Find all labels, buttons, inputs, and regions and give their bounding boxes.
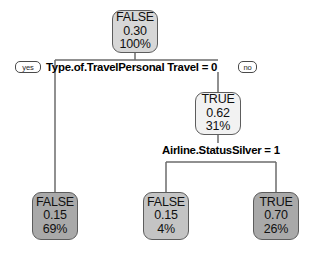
- tree-node-internal-true[interactable]: TRUE 0.62 31%: [195, 92, 241, 135]
- tree-node-leaf-middle[interactable]: FALSE 0.15 4%: [143, 192, 189, 240]
- node-leaf-left-percent: 69%: [43, 223, 67, 237]
- node-root-label: FALSE: [116, 11, 154, 25]
- tree-node-root[interactable]: FALSE 0.30 100%: [112, 10, 158, 53]
- decision-tree-diagram: FALSE 0.30 100% yes Type.of.TravelPerson…: [0, 0, 314, 254]
- node-internal-true-probability: 0.62: [206, 107, 230, 121]
- node-leaf-middle-probability: 0.15: [154, 209, 178, 223]
- node-leaf-right-percent: 26%: [264, 223, 288, 237]
- node-internal-true-label: TRUE: [201, 93, 234, 107]
- split-label-root-text: Type.of.TravelPersonal Travel = 0: [46, 61, 217, 73]
- node-leaf-middle-percent: 4%: [157, 223, 175, 237]
- node-leaf-left-probability: 0.15: [43, 209, 67, 223]
- branch-tag-no[interactable]: no: [238, 61, 257, 73]
- node-root-percent: 100%: [119, 38, 150, 52]
- node-leaf-right-label: TRUE: [259, 196, 292, 210]
- tree-node-leaf-left[interactable]: FALSE 0.15 69%: [32, 192, 78, 240]
- node-internal-true-percent: 31%: [206, 120, 230, 134]
- node-leaf-right-probability: 0.70: [264, 209, 288, 223]
- branch-tag-yes-label: yes: [22, 63, 34, 72]
- node-leaf-left-label: FALSE: [36, 196, 74, 210]
- node-leaf-middle-label: FALSE: [147, 196, 185, 210]
- branch-tag-yes[interactable]: yes: [15, 61, 41, 73]
- split-label-root: Type.of.TravelPersonal Travel = 0: [46, 61, 217, 73]
- split-label-second: Airline.StatusSilver = 1: [162, 144, 280, 156]
- tree-node-leaf-right[interactable]: TRUE 0.70 26%: [253, 192, 299, 240]
- node-root-probability: 0.30: [123, 25, 147, 39]
- branch-tag-no-label: no: [243, 63, 251, 72]
- split-label-second-text: Airline.StatusSilver = 1: [162, 144, 280, 156]
